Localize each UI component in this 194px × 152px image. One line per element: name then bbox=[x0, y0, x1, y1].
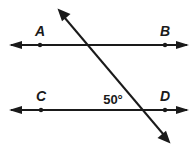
line-ab-right-arrowhead bbox=[176, 41, 189, 49]
point-dot-d bbox=[163, 108, 167, 112]
point-label-c: C bbox=[36, 89, 46, 103]
line-ab-group bbox=[9, 41, 189, 49]
geometry-figure: A B C D 50° bbox=[0, 0, 194, 152]
point-dot-a bbox=[38, 43, 42, 47]
point-dot-c bbox=[39, 108, 43, 112]
transversal-group bbox=[58, 9, 171, 144]
point-label-b: B bbox=[160, 24, 170, 38]
point-dot-b bbox=[163, 43, 167, 47]
transversal-bottom-arrowhead bbox=[158, 131, 171, 144]
transversal-top-arrowhead bbox=[58, 9, 71, 22]
line-cd-group bbox=[9, 106, 189, 114]
line-ab-left-arrowhead bbox=[9, 41, 22, 49]
point-label-d: D bbox=[160, 89, 170, 103]
line-cd-left-arrowhead bbox=[9, 106, 22, 114]
point-label-a: A bbox=[35, 24, 45, 38]
transversal-stroke bbox=[62, 14, 167, 138]
angle-label-50: 50° bbox=[103, 93, 123, 106]
line-cd-right-arrowhead bbox=[176, 106, 189, 114]
